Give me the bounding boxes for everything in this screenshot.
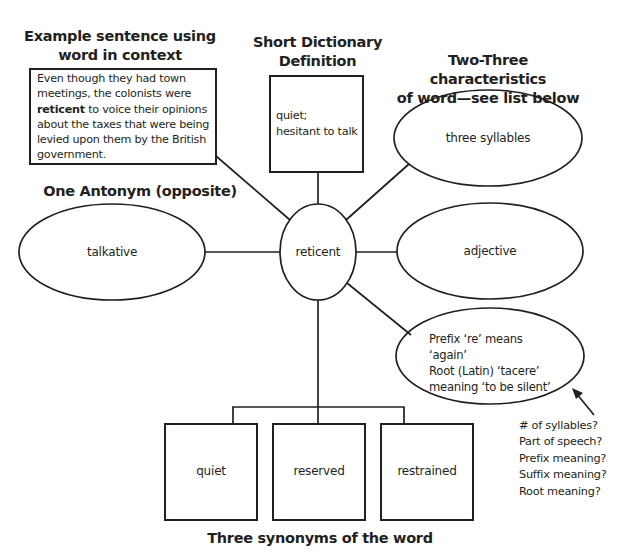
hint-suffix: Suffix meaning? <box>519 467 637 483</box>
synonyms-heading: Three synonyms of the word <box>180 529 460 548</box>
connector-characteristic-3 <box>347 283 411 335</box>
characteristics-heading-line1: Two-Three characteristics <box>388 51 588 89</box>
definition-line1: quiet; <box>276 108 366 124</box>
definition-heading-line1: Short Dictionary <box>250 33 385 52</box>
antonym-heading: One Antonym (opposite) <box>40 182 240 201</box>
hint-list: # of syllables? Part of speech? Prefix m… <box>519 418 637 500</box>
hint-prefix: Prefix meaning? <box>519 451 637 467</box>
antonym-label: talkative <box>22 245 202 259</box>
arrow-head-icon <box>572 388 583 399</box>
hint-syllables: # of syllables? <box>519 418 637 434</box>
definition-heading-line2: Definition <box>250 52 385 71</box>
etymology-line1: Prefix ‘re’ means ‘again’ <box>429 331 559 363</box>
sentence-heading-line2: word in context <box>20 46 220 65</box>
characteristic-2-label: adjective <box>400 244 580 258</box>
characteristic-1-label: three syllables <box>400 131 576 145</box>
characteristic-3-text: Prefix ‘re’ means ‘again’ Root (Latin) ‘… <box>429 331 559 395</box>
etymology-line2: Root (Latin) ‘tacere’ <box>429 363 559 379</box>
definition-line2: hesitant to talk <box>276 124 366 140</box>
definition-text: quiet; hesitant to talk <box>276 108 366 139</box>
sentence-bold-word: reticent <box>37 103 85 116</box>
synonym-2-label: reserved <box>272 464 366 478</box>
synonym-1-label: quiet <box>164 464 258 478</box>
sentence-heading-line1: Example sentence using <box>20 27 220 46</box>
characteristics-heading-line2: of word—see list below <box>388 89 588 108</box>
hint-part-of-speech: Part of speech? <box>519 434 637 450</box>
center-word-label: reticent <box>280 245 356 259</box>
sentence-text: Even though they had town meetings, the … <box>37 71 215 163</box>
definition-heading: Short Dictionary Definition <box>250 33 385 71</box>
synonym-3-label: restrained <box>380 464 474 478</box>
hint-root: Root meaning? <box>519 484 637 500</box>
sentence-text-before: Even though they had town meetings, the … <box>37 72 191 100</box>
sentence-heading: Example sentence using word in context <box>20 27 220 65</box>
etymology-line3: meaning ‘to be silent’ <box>429 379 559 395</box>
characteristics-heading: Two-Three characteristics of word—see li… <box>388 51 588 108</box>
